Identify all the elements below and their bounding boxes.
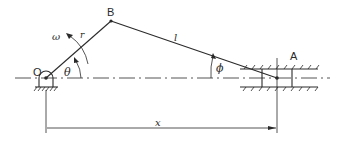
label-r: r [80, 30, 84, 41]
theta-arc [76, 61, 81, 78]
label-a: A [290, 51, 297, 62]
label-omega: ω [52, 31, 60, 42]
label-x: x [155, 117, 161, 128]
label-b: B [107, 7, 114, 18]
label-phi: ϕ [216, 63, 224, 74]
phi-arc [211, 56, 213, 78]
theta-arrowhead-icon [74, 57, 79, 63]
omega-arrowhead-icon [66, 33, 73, 39]
omega-arc [70, 36, 88, 64]
label-o: O [33, 67, 42, 78]
crank-ob [46, 21, 111, 78]
dimension-arrowhead-icon [268, 126, 276, 130]
label-l: l [174, 32, 177, 43]
slider-crank-diagram [0, 0, 337, 141]
label-theta: θ [64, 67, 71, 78]
